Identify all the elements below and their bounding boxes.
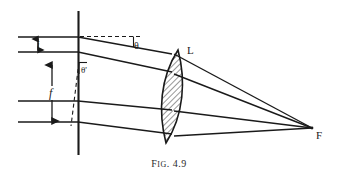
figure-caption: FIG. 4.9 — [0, 158, 338, 169]
lens-element — [162, 50, 183, 143]
image-height-label: i — [37, 40, 40, 49]
lens-label: L — [187, 45, 194, 56]
focal-point-marker — [311, 127, 314, 130]
focal-length-label: f — [49, 87, 52, 99]
caption-smallcaps: IG — [157, 160, 166, 169]
theta-dashed-reference — [80, 37, 142, 48]
theta-angle-label: θ — [134, 41, 139, 51]
focal-point-label: F — [316, 130, 322, 141]
figure-container: L F θ θ' i f FIG. 4.9 — [0, 0, 338, 184]
caption-suffix: . 4.9 — [167, 158, 187, 169]
theta-prime-angle-label: θ' — [81, 66, 87, 75]
